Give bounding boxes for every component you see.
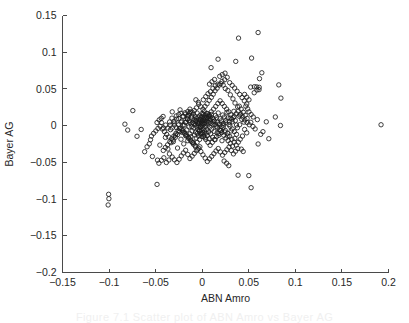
y-axis-title: Bayer AG: [3, 122, 15, 167]
x-tick-label: −0.1: [99, 276, 120, 288]
y-tick-label: 0.1: [42, 46, 57, 58]
y-tick-label: −0.15: [30, 229, 57, 241]
y-tick-label: −0.1: [36, 193, 57, 205]
x-tick-label: 0.2: [381, 276, 396, 288]
y-tick-label: 0.05: [36, 83, 57, 95]
y-tick-label: −0.05: [30, 156, 57, 168]
x-tick-label: 0: [199, 276, 205, 288]
x-tick-label: −0.05: [142, 276, 169, 288]
x-axis-title: ABN Amro: [201, 292, 250, 304]
y-tick-label: −0.2: [36, 266, 57, 278]
y-tick-label: 0.15: [36, 9, 57, 21]
x-tick-label: 0.1: [288, 276, 303, 288]
x-tick-label: 0.05: [239, 276, 260, 288]
y-tick-label: 0: [51, 119, 57, 131]
x-tick-label: 0.15: [332, 276, 353, 288]
